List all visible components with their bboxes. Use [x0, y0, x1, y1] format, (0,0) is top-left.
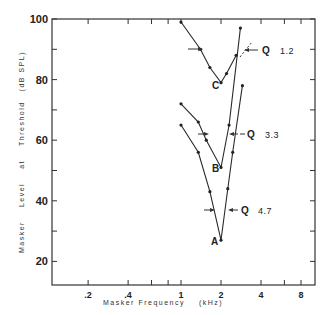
curves — [179, 20, 244, 241]
data-point — [226, 187, 229, 190]
x-tick-label: 8 — [298, 290, 303, 300]
svg-text:4.7: 4.7 — [258, 206, 272, 216]
q-marker-c: Q 1.2 — [188, 45, 294, 56]
data-point — [179, 123, 182, 126]
data-point — [208, 190, 211, 193]
data-point — [219, 239, 222, 242]
y-tick-label: 80 — [36, 74, 48, 86]
data-point — [219, 81, 222, 84]
x-axis-ticks: .2.41248 — [84, 19, 303, 300]
curve-c — [179, 20, 237, 84]
q-marker-b: Q 3.3 — [198, 129, 279, 140]
y-axis-title: MaskerLevelatThreshold(dB SPL) — [18, 51, 26, 253]
svg-text:3.3: 3.3 — [265, 130, 279, 140]
data-point — [197, 120, 200, 123]
svg-text:Q: Q — [262, 45, 270, 56]
data-point — [197, 151, 200, 154]
svg-text:Q: Q — [241, 205, 249, 216]
x-tick-label: 4 — [258, 290, 263, 300]
data-point — [179, 102, 182, 105]
data-point — [208, 66, 211, 69]
data-point — [179, 20, 182, 23]
data-point — [239, 26, 242, 29]
data-point — [227, 123, 230, 126]
data-point — [205, 139, 208, 142]
data-point — [241, 84, 244, 87]
data-point — [225, 72, 228, 75]
curve-b — [179, 26, 242, 169]
masking-tuning-curves-chart: 20406080100 .2.41248 MaskerLevelatThresh… — [0, 0, 329, 315]
svg-text:Q: Q — [247, 129, 255, 140]
svg-text:1.2: 1.2 — [280, 46, 294, 56]
x-axis-title: Masker Frequency(kHz) — [103, 299, 223, 307]
y-tick-label: 20 — [36, 255, 48, 267]
plot-frame — [52, 19, 315, 285]
y-tick-label: 40 — [36, 195, 48, 207]
data-point — [231, 151, 234, 154]
curve-label-c: C — [212, 80, 219, 91]
y-axis-ticks: 20406080100 — [30, 13, 315, 267]
curve-label-a: A — [211, 236, 218, 247]
x-tick-label: .2 — [84, 290, 92, 300]
curve-label-b: B — [212, 163, 219, 174]
y-tick-label: 60 — [36, 134, 48, 146]
data-point — [219, 166, 222, 169]
y-tick-label: 100 — [30, 13, 48, 25]
